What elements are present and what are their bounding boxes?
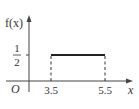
y-tick-numerator: 1	[14, 42, 20, 54]
y-tick-denominator: 2	[14, 56, 20, 68]
y-axis-arrow-icon	[27, 15, 32, 22]
x-tick-5-5: 5.5	[98, 84, 112, 96]
uniform-density-chart: f(x) 1 2 O 3.5 5.5 x	[0, 0, 139, 109]
origin-label: O	[11, 82, 20, 96]
x-axis-label: x	[127, 83, 134, 97]
y-axis-label: f(x)	[5, 16, 23, 30]
x-tick-3-5: 3.5	[44, 84, 58, 96]
